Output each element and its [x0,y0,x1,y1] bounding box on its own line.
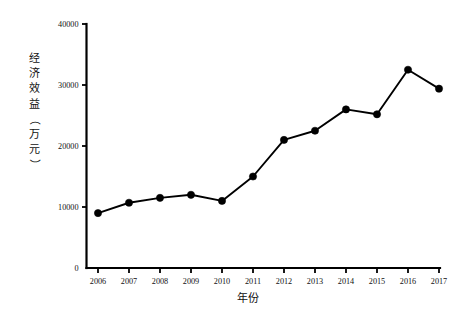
x-tick-label: 2014 [338,277,354,286]
data-point-marker [342,106,349,113]
data-point-marker [280,136,287,143]
data-point-marker [187,191,194,198]
x-tick-label: 2008 [152,277,168,286]
y-axis-title-char: 万 [29,128,40,140]
data-point-marker [373,111,380,118]
x-tick-label: 2017 [431,277,447,286]
data-point-marker [125,199,132,206]
x-tick-label: 2010 [214,277,230,286]
data-point-marker [94,210,101,217]
data-point-marker [249,173,256,180]
data-point-marker [311,127,318,134]
data-point-marker [404,66,411,73]
chart-background [0,0,454,317]
x-tick-label: 2016 [400,277,416,286]
data-point-marker [156,194,163,201]
y-tick-label: 40000 [58,20,78,29]
y-axis-title-char: ） [29,159,41,170]
x-tick-label: 2006 [90,277,106,286]
x-tick-label: 2012 [276,277,292,286]
y-tick-label: 30000 [58,81,78,90]
x-tick-label: 2009 [183,277,199,286]
chart-canvas: 010000200003000040000 200620072008200920… [0,0,454,317]
y-tick-label: 20000 [58,142,78,151]
y-axis-title-char: 益 [29,97,40,110]
x-tick-label: 2015 [369,277,385,286]
data-point-marker [435,85,442,92]
line-chart-figure: 010000200003000040000 200620072008200920… [0,0,454,317]
y-tick-label: 0 [74,264,78,273]
y-tick-label: 10000 [58,203,78,212]
y-axis-title-char: （ [29,114,41,125]
x-tick-label: 2011 [245,277,261,286]
y-axis-title-char: 效 [29,81,40,94]
x-axis-title: 年份 [237,291,259,304]
x-tick-label: 2013 [307,277,323,286]
y-axis-title-char: 经 [29,52,40,64]
y-axis-title-char: 济 [29,66,40,79]
y-axis-title-char: 元 [29,143,40,155]
data-point-marker [218,197,225,204]
x-tick-label: 2007 [121,277,137,286]
